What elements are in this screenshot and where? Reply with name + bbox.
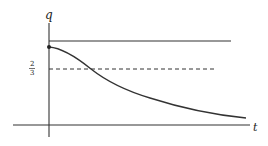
chart: q t 2 3 [0,0,268,146]
initial-point-dot [47,45,51,49]
x-axis-label: t [253,121,258,134]
tick-fraction-numerator: 2 [30,60,34,68]
y-axis-label: q [45,8,53,22]
tick-fraction-denominator: 3 [30,69,34,77]
q-curve [49,47,246,118]
